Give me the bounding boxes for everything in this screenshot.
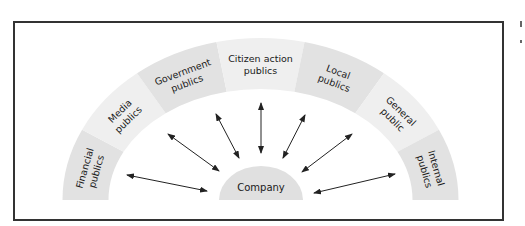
publics-diagram: FinancialpublicsMediapublicsGovernmentpu… [0, 0, 525, 226]
arrow-internal [314, 174, 395, 193]
label-citizen-action-line2: publics [244, 65, 278, 76]
arrow-local [283, 115, 305, 158]
arrow-media [168, 134, 219, 171]
arrow-financial [127, 175, 207, 191]
arrow-general [302, 134, 352, 172]
label-citizen-action-line1: Citizen action [228, 53, 293, 64]
company-node: Company [219, 166, 303, 200]
arrow-government [216, 114, 239, 158]
company-label: Company [237, 182, 285, 193]
